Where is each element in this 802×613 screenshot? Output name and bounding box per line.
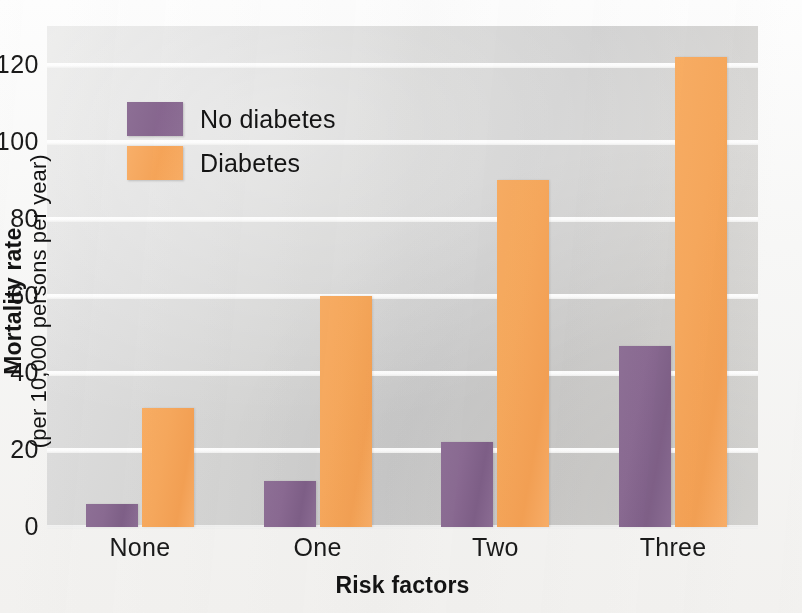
legend-label-diabetes: Diabetes (200, 149, 300, 178)
bar-one-diabetes (320, 296, 372, 527)
legend-item-diabetes: Diabetes (127, 143, 427, 183)
legend-label-no-diabetes: No diabetes (200, 105, 336, 134)
bar-three-no-diabetes (619, 346, 671, 527)
x-axis-title: Risk factors (47, 572, 758, 599)
orange-swatch-icon (127, 146, 183, 180)
bar-one-no-diabetes (264, 481, 316, 527)
y-axis-title-line2: (per 10,000 persons per year) (27, 121, 52, 481)
legend: No diabetes Diabetes (127, 99, 427, 187)
x-tick-label-one: One (238, 533, 398, 562)
x-tick-label-three: Three (593, 533, 753, 562)
bar-three-diabetes (675, 57, 727, 527)
x-tick-label-two: Two (415, 533, 575, 562)
y-axis-title-container: Mortality rate (per 10,000 persons per y… (0, 0, 54, 613)
legend-item-no-diabetes: No diabetes (127, 99, 427, 139)
bar-two-diabetes (497, 180, 549, 527)
x-tick-label-none: None (60, 533, 220, 562)
bar-none-diabetes (142, 408, 194, 527)
figure-container: 020406080100120 NoneOneTwoThree Mortalit… (0, 0, 802, 613)
y-axis-title: Mortality rate (per 10,000 persons per y… (1, 121, 51, 481)
purple-swatch-icon (127, 102, 183, 136)
y-axis-title-line1: Mortality rate (1, 121, 27, 481)
bar-two-no-diabetes (441, 442, 493, 527)
bar-none-no-diabetes (86, 504, 138, 527)
